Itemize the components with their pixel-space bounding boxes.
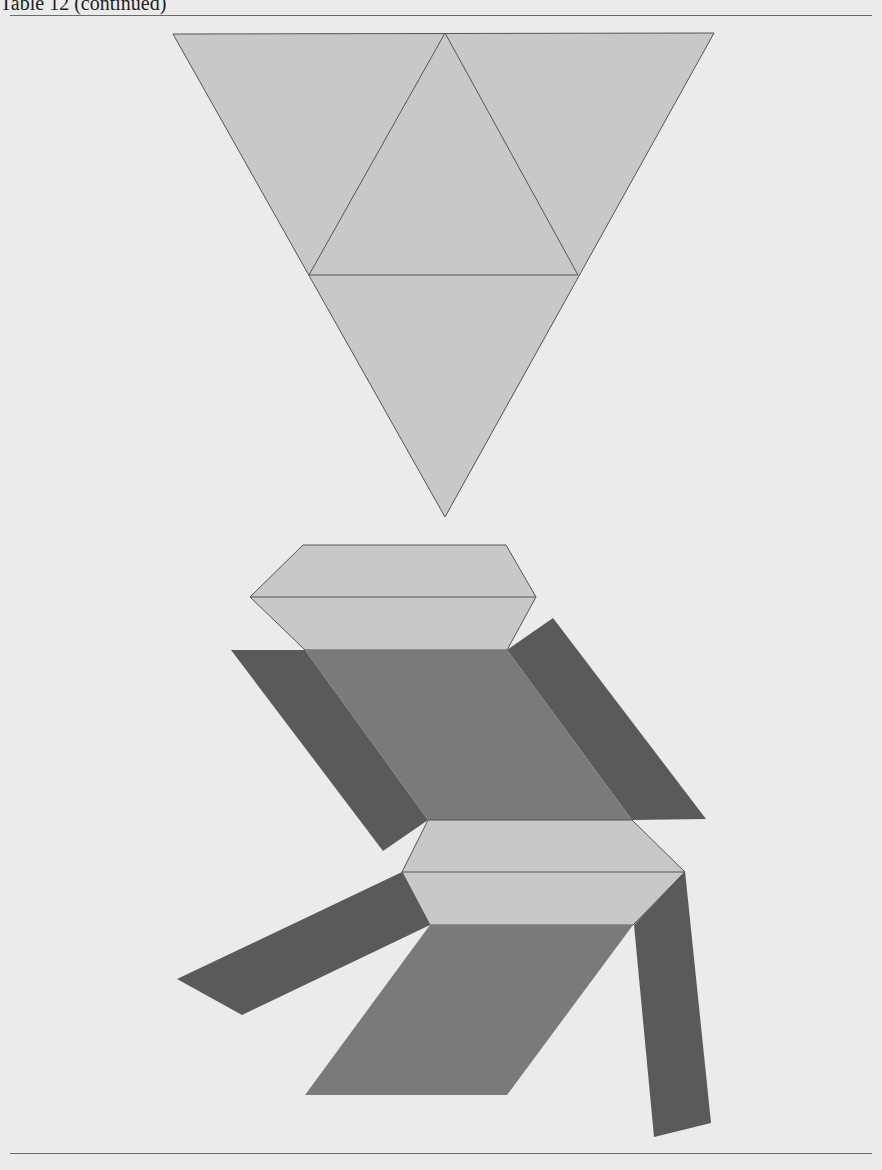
triangle-net [173, 33, 714, 517]
net-figure [0, 0, 882, 1170]
prism-net [177, 545, 711, 1137]
